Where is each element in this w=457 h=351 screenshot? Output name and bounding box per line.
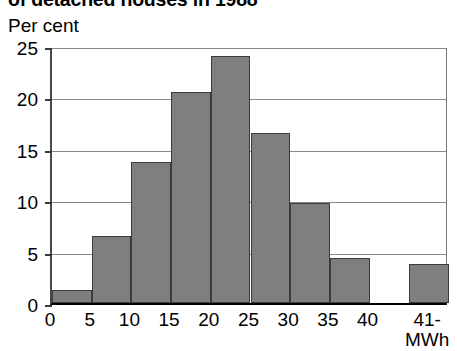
y-tick-label: 20	[0, 90, 38, 109]
bar	[171, 92, 211, 303]
bar	[409, 264, 449, 303]
y-tick-label: 0	[0, 296, 38, 315]
x-tick-label: 30	[278, 310, 299, 329]
bar	[330, 258, 370, 303]
bar	[92, 236, 132, 303]
y-tick-mark	[45, 305, 52, 307]
plot-area	[50, 48, 447, 305]
chart-title: of detached houses in 1988	[8, 0, 457, 11]
x-tick-label: 5	[84, 310, 95, 329]
y-tick-label: 5	[0, 245, 38, 264]
y-tick-mark	[45, 99, 52, 101]
y-tick-label: 10	[0, 193, 38, 212]
y-tick-label: 15	[0, 142, 38, 161]
x-tick-label: 40	[357, 310, 378, 329]
chart-figure: of detached houses in 1988 Per cent 0510…	[0, 0, 457, 351]
x-tick-label: 35	[317, 310, 338, 329]
y-tick-mark	[45, 202, 52, 204]
bar	[251, 133, 291, 303]
y-axis-label: Per cent	[8, 15, 79, 37]
bar	[211, 56, 251, 303]
y-tick-mark	[45, 151, 52, 153]
bar	[52, 290, 92, 303]
x-tick-label: 15	[159, 310, 180, 329]
bar-series	[52, 48, 447, 303]
y-tick-mark	[45, 48, 52, 50]
x-tick-label: 41-	[413, 310, 440, 329]
x-axis-label: MWh	[405, 330, 449, 349]
y-tick-label: 25	[0, 39, 38, 58]
x-tick-label: 0	[45, 310, 56, 329]
x-tick-label: 25	[238, 310, 259, 329]
y-tick-mark	[45, 254, 52, 256]
bar	[131, 162, 171, 303]
x-tick-label: 10	[119, 310, 140, 329]
x-tick-label: 20	[198, 310, 219, 329]
bar	[290, 203, 330, 303]
